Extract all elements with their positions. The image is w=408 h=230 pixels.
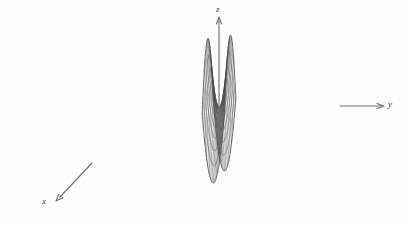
axis-label-y: y	[388, 100, 392, 109]
axis-label-x: x	[42, 197, 46, 206]
surface-plot-canvas	[0, 0, 408, 230]
axis-label-z: z	[216, 5, 220, 14]
saddle-surface-figure: z y x	[0, 0, 408, 230]
